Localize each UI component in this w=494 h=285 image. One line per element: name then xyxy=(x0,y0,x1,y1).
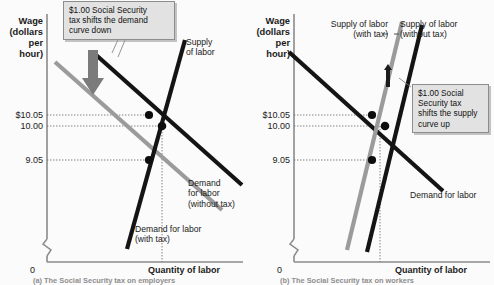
panel-a: Wage (dollars per hour) $10.05 10.00 9.0… xyxy=(0,0,247,285)
panel-b: Wage (dollars per hour) $10.05 10.00 9.0… xyxy=(247,0,494,285)
figure-container: Wage (dollars per hour) $10.05 10.00 9.0… xyxy=(0,0,494,285)
panel-a-y-axis-label: Wage (dollars per hour) xyxy=(0,16,43,60)
panel-b-annotation-callout: $1.00 Social Security tax shifts the sup… xyxy=(412,84,489,133)
panel-a-ytick-1005: $10.05 xyxy=(0,110,43,121)
axis-break-icon xyxy=(290,239,298,256)
point-wage-1005 xyxy=(145,111,153,119)
panel-a-origin-label: 0 xyxy=(30,265,35,276)
panel-a-x-axis-label: Quantity of labor xyxy=(148,265,220,276)
panel-b-label-supply-without-tax: Supply of labor (without tax) xyxy=(400,19,457,40)
panel-b-ytick-905: 9.05 xyxy=(246,155,290,166)
panel-a-label-demand-with-tax: Demand for labor (with tax) xyxy=(135,224,201,245)
point-wage-1000 xyxy=(381,122,390,131)
point-wage-905 xyxy=(145,156,153,164)
figure-captions: (a) The Social Security tax on employers… xyxy=(0,276,494,285)
panel-a-label-demand-without-tax: Demand for labor (without tax) xyxy=(188,178,235,209)
panel-b-label-demand: Demand for labor xyxy=(410,190,476,200)
panel-a-ytick-1000: 10.00 xyxy=(0,121,43,132)
point-wage-905 xyxy=(368,156,376,164)
point-wage-1005 xyxy=(368,111,376,119)
panel-b-y-axis-label: Wage (dollars per hour) xyxy=(245,16,290,60)
panel-a-annotation-callout: $1.00 Social Security tax shifts the dem… xyxy=(63,1,175,40)
axis-break-icon xyxy=(43,239,51,256)
panel-b-origin-label: 0 xyxy=(277,265,282,276)
caption-panel-b: (b) The Social Security tax on workers xyxy=(280,276,414,285)
panel-b-ytick-1000: 10.00 xyxy=(246,121,290,132)
panel-b-ytick-1005: $10.05 xyxy=(246,110,290,121)
panel-a-ytick-905: 9.05 xyxy=(0,155,43,166)
panel-b-x-axis-label: Quantity of labor xyxy=(395,265,467,276)
panel-a-label-supply: Supply of labor xyxy=(186,37,215,58)
panel-b-label-supply-with-tax: Supply of labor (with tax) xyxy=(305,19,388,40)
point-wage-1000 xyxy=(158,122,167,131)
caption-panel-a: (a) The Social Security tax on employers xyxy=(33,276,175,285)
curve-supply xyxy=(127,40,185,249)
